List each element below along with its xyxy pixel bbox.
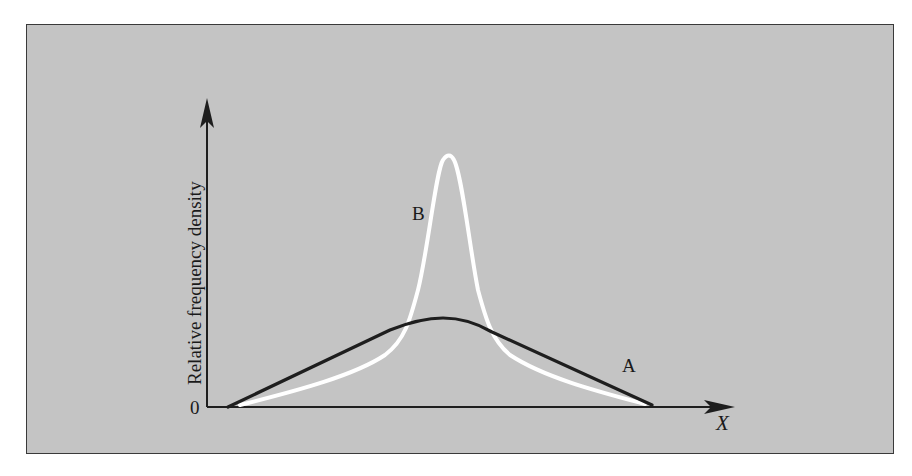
curve-a — [228, 318, 652, 407]
origin-label: 0 — [190, 397, 200, 419]
curve-b — [240, 156, 645, 406]
y-axis-label: Relative frequency density — [184, 181, 206, 385]
curve-a-label: A — [622, 355, 636, 377]
plot-area — [0, 0, 912, 476]
x-axis-label: X — [716, 411, 729, 436]
curve-b-label: B — [412, 203, 425, 225]
